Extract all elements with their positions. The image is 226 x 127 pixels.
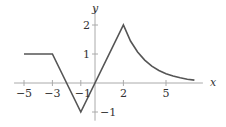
x-axis-label: x — [210, 76, 217, 89]
x-tick-label: 5 — [163, 87, 170, 100]
y-axis-label: y — [91, 2, 99, 15]
axes — [14, 8, 203, 121]
x-tick-label: −3 — [44, 87, 60, 100]
y-tick-label: −1 — [100, 106, 116, 119]
function-graph: −5−3−12521−1xy — [0, 0, 226, 127]
x-tick-label: 2 — [120, 87, 127, 100]
x-tick-label: −1 — [75, 87, 91, 100]
y-tick-label: 1 — [83, 48, 90, 61]
labels: −5−3−12521−1xy — [16, 2, 217, 119]
y-tick-label: 2 — [83, 19, 90, 32]
x-tick-label: −5 — [16, 87, 32, 100]
